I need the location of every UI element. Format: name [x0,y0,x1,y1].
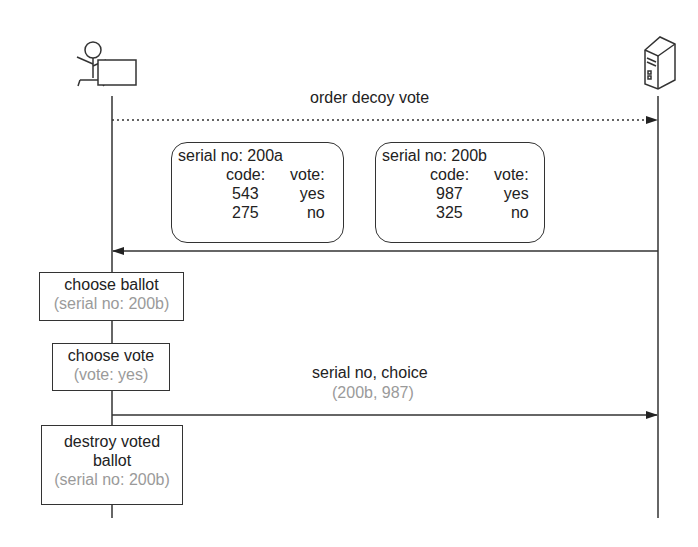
choose-vote-sub: (vote: yes) [55,365,167,384]
voter-icon [77,42,136,86]
choose-ballot-sub: (serial no: 200b) [42,294,181,313]
code-cell: 325 [430,203,494,222]
ballot-code-table: code: vote: 987 yes 325 no [430,165,529,222]
ballot-code-table: code: vote: 543 yes 275 no [226,165,325,222]
destroy-ballot-title-line1: destroy voted [44,432,180,451]
destroy-ballot-box: destroy voted ballot (serial no: 200b) [41,425,183,505]
ballot-card-200a: serial no: 200a code: vote: 543 yes 275 … [171,142,344,243]
vote-cell: yes [494,184,529,203]
serial-choice-sublabel: (200b, 987) [332,384,414,402]
vote-header: vote: [290,165,325,184]
ballot-card-200b: serial no: 200b code: vote: 987 yes 325 … [375,142,545,243]
choose-ballot-title: choose ballot [42,275,181,294]
destroy-ballot-title-line2: ballot [44,451,180,470]
choose-ballot-box: choose ballot (serial no: 200b) [39,272,184,321]
ballot-serial: serial no: 200b [382,146,538,165]
code-header: code: [430,165,494,184]
code-cell: 275 [226,203,290,222]
choose-vote-title: choose vote [55,346,167,365]
vote-cell: no [494,203,529,222]
serial-choice-label: serial no, choice [312,364,428,382]
vote-header: vote: [494,165,529,184]
code-cell: 543 [226,184,290,203]
vote-cell: yes [290,184,325,203]
choose-vote-box: choose vote (vote: yes) [52,343,170,391]
ballot-serial: serial no: 200a [178,146,337,165]
server-icon [645,37,675,89]
code-header: code: [226,165,290,184]
destroy-ballot-sub: (serial no: 200b) [44,470,180,489]
code-cell: 987 [430,184,494,203]
vote-cell: no [290,203,325,222]
order-decoy-vote-label: order decoy vote [310,89,429,107]
